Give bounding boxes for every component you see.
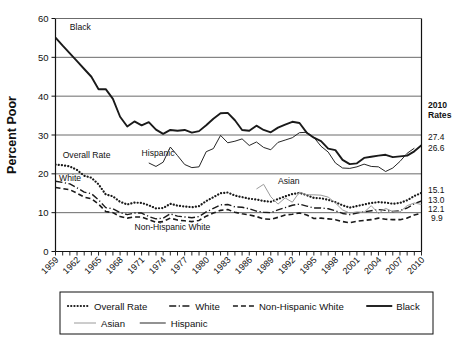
- annotation-asian: Asian: [278, 176, 300, 186]
- y-tick-label: 60: [38, 13, 49, 24]
- series-line-overall-rate: [56, 165, 422, 209]
- x-tick-label: 2001: [341, 255, 362, 276]
- x-tick-label: 1980: [190, 255, 211, 276]
- x-tick-label: 1968: [104, 255, 125, 276]
- x-tick-label: 2004: [362, 255, 383, 276]
- side-panel-header-label: Rates: [428, 110, 452, 120]
- x-tick-label: 1977: [168, 255, 189, 276]
- x-tick-label: 1965: [82, 255, 103, 276]
- annotation-white: White: [59, 173, 81, 183]
- x-tick-label: 1995: [298, 255, 319, 276]
- annotation-hispanic: Hispanic: [142, 148, 176, 158]
- side-panel-value-hispanic: 26.6: [428, 143, 445, 153]
- legend-label-non-hispanic-white: Non-Hispanic White: [259, 301, 344, 312]
- y-tick-label: 50: [38, 52, 49, 63]
- x-tick-label: 1959: [39, 255, 60, 276]
- x-axis-ticks: 1959196219651968197119741977198019831986…: [39, 252, 426, 277]
- y-tick-label: 0: [43, 246, 48, 257]
- x-tick-label: 1998: [319, 255, 340, 276]
- series-line-hispanic: [149, 132, 415, 171]
- series-line-black: [56, 38, 422, 165]
- x-tick-label: 2010: [405, 255, 426, 276]
- legend: Overall RateWhiteNon-Hispanic WhiteBlack…: [60, 292, 433, 334]
- side-panel-value-non-hispanic-white: 9.9: [431, 213, 443, 223]
- y-tick-label: 20: [38, 168, 49, 179]
- side-panel-value-black: 27.4: [428, 132, 445, 142]
- x-tick-label: 1962: [61, 255, 82, 276]
- chart-svg: 0102030405060195919621965196819711974197…: [0, 0, 459, 342]
- y-tick-label: 10: [38, 207, 49, 218]
- series-line-non-hispanic-white: [56, 187, 422, 222]
- series-group: [56, 38, 422, 223]
- x-tick-label: 1974: [147, 255, 168, 276]
- x-tick-label: 1983: [211, 255, 232, 276]
- x-tick-label: 1989: [254, 255, 275, 276]
- side-panel-2010-rates: 2010Rates27.426.615.113.012.19.9: [428, 100, 452, 223]
- legend-label-white: White: [195, 301, 220, 312]
- annotation-overall-rate: Overall Rate: [63, 150, 111, 160]
- x-tick-label: 1986: [233, 255, 254, 276]
- x-tick-label: 1971: [125, 255, 146, 276]
- legend-label-overall-rate: Overall Rate: [94, 301, 147, 312]
- y-gridlines: 0102030405060: [38, 13, 422, 257]
- y-axis-title: Percent Poor: [5, 96, 19, 174]
- annotation-non-hispanic-white: Non-Hispanic White: [134, 222, 210, 232]
- legend-label-hispanic: Hispanic: [171, 318, 208, 329]
- y-tick-label: 40: [38, 91, 49, 102]
- x-tick-label: 1992: [276, 255, 297, 276]
- poverty-rate-chart: 0102030405060195919621965196819711974197…: [0, 0, 459, 342]
- y-tick-label: 30: [38, 130, 49, 141]
- side-panel-header-year: 2010: [428, 100, 447, 110]
- legend-label-asian: Asian: [101, 318, 125, 329]
- annotation-black: Black: [70, 22, 92, 32]
- x-tick-label: 2007: [384, 255, 405, 276]
- legend-label-black: Black: [396, 301, 420, 312]
